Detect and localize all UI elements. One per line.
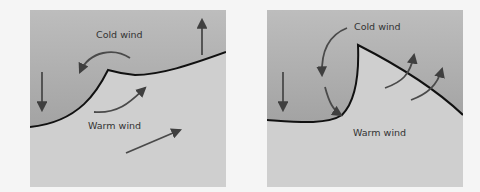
warm-wind-label: Warm wind — [353, 127, 406, 138]
cold-wind-label: Cold wind — [354, 21, 401, 32]
cold-wind-label: Cold wind — [96, 29, 143, 40]
left-diagram-svg: Cold wind Warm wind — [30, 10, 226, 187]
warm-wind-label: Warm wind — [88, 120, 141, 131]
left-front-diagram: Cold wind Warm wind — [30, 10, 226, 187]
right-front-diagram: Cold wind Warm wind — [267, 10, 463, 187]
right-diagram-svg: Cold wind Warm wind — [267, 10, 463, 187]
